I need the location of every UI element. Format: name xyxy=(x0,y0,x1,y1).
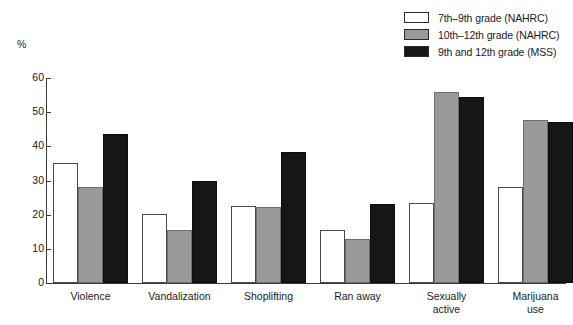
x-axis-category-label: Ran away xyxy=(308,290,408,303)
x-axis-category-label: Vandalization xyxy=(130,290,230,303)
bar xyxy=(320,230,345,283)
y-axis-tick xyxy=(46,78,51,79)
y-axis-tick-label: 20 xyxy=(6,208,44,220)
y-axis-tick-label: 40 xyxy=(6,139,44,151)
bar xyxy=(409,203,434,283)
bar xyxy=(256,207,281,283)
y-axis-tick-label-wrap: 10 xyxy=(0,249,44,250)
bar xyxy=(370,204,395,283)
y-axis-tick-label: 10 xyxy=(6,242,44,254)
bar xyxy=(434,92,459,283)
bar xyxy=(523,120,548,283)
bar xyxy=(281,152,306,283)
y-axis-tick-label: 0 xyxy=(6,276,44,288)
y-axis-tick xyxy=(46,283,51,284)
bar xyxy=(231,206,256,283)
x-axis-category-label: Marijuana use xyxy=(486,290,573,316)
y-axis-tick-label-wrap: 40 xyxy=(0,146,44,147)
y-axis-tick-label: 50 xyxy=(6,105,44,117)
bar xyxy=(192,181,217,283)
y-axis-tick-label-wrap: 0 xyxy=(0,283,44,284)
bar xyxy=(142,214,167,283)
y-axis-tick xyxy=(46,249,51,250)
x-axis-category-label: Shoplifting xyxy=(219,290,319,303)
y-axis-tick-label-wrap: 50 xyxy=(0,112,44,113)
y-axis-tick xyxy=(46,181,51,182)
y-axis-tick-label-wrap: 60 xyxy=(0,78,44,79)
x-axis-category-label: Violence xyxy=(41,290,141,303)
y-axis-tick-label: 60 xyxy=(6,71,44,83)
y-axis-tick xyxy=(46,215,51,216)
bar xyxy=(53,163,78,283)
y-axis-tick xyxy=(46,146,51,147)
y-axis-tick-label-wrap: 20 xyxy=(0,215,44,216)
bar xyxy=(167,230,192,283)
bar xyxy=(498,187,523,283)
bar xyxy=(459,97,484,283)
bar xyxy=(345,239,370,283)
x-axis-category-label: Sexually active xyxy=(397,290,497,316)
bar xyxy=(103,134,128,283)
bar xyxy=(548,122,573,283)
y-axis-tick-label: 30 xyxy=(6,174,44,186)
bar xyxy=(78,187,103,283)
x-axis-line xyxy=(46,283,566,284)
bar-chart-plot-area: 0102030405060 ViolenceVandalizationShopl… xyxy=(0,0,573,325)
y-axis-tick xyxy=(46,112,51,113)
y-axis-tick-label-wrap: 30 xyxy=(0,181,44,182)
